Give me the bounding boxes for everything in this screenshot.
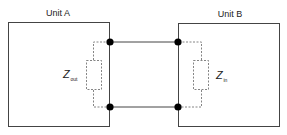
node-b-top: [174, 38, 181, 45]
z-in-subscript: in: [224, 77, 228, 83]
unit-b-label: Unit B: [218, 9, 243, 19]
z-out-impedance: [87, 42, 110, 107]
z-in-impedance: [179, 42, 209, 107]
unit-a-box: [9, 23, 110, 127]
node-a-bottom: [106, 103, 113, 110]
node-b-bottom: [174, 103, 181, 110]
node-a-top: [106, 38, 113, 45]
unit-a-label: Unit A: [46, 8, 70, 18]
z-out-subscript: out: [71, 76, 79, 82]
unit-connection-diagram: Unit A Unit B Z out Z in: [0, 0, 287, 135]
